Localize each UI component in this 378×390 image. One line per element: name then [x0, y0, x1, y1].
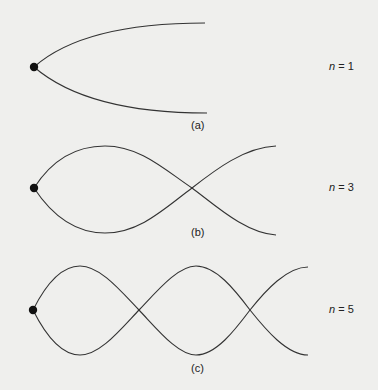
label-n-b: n = 3	[329, 181, 354, 193]
label-n-c: n = 5	[329, 303, 354, 315]
wave-b-upper	[34, 146, 276, 235]
wave-b-lower	[34, 146, 276, 233]
source-dot-b	[30, 184, 38, 192]
caption-b: (b)	[191, 226, 204, 238]
standing-wave-diagram	[0, 0, 378, 390]
caption-a: (a)	[191, 119, 204, 131]
source-dot-c	[29, 306, 37, 314]
caption-c: (c)	[191, 362, 204, 374]
wave-a-lower	[34, 67, 207, 113]
source-dot-a	[30, 63, 38, 71]
wave-a-upper	[34, 23, 205, 67]
label-n-a: n = 1	[329, 60, 354, 72]
wave-c-upper	[33, 266, 308, 355]
